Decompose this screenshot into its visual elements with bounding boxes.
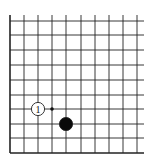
dot-marker	[50, 107, 54, 111]
black-stone	[59, 117, 72, 130]
white-stone: 1	[31, 102, 44, 115]
board-markers	[50, 107, 54, 111]
board-grid	[10, 15, 144, 153]
go-board-diagram: 1	[0, 0, 154, 165]
move-number-label: 1	[36, 104, 41, 115]
